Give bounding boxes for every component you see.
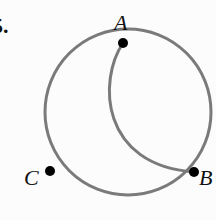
diagram-canvas: 5. A B C bbox=[0, 0, 216, 220]
label-b: B bbox=[199, 165, 212, 190]
problem-number: 5. bbox=[0, 13, 9, 38]
label-a: A bbox=[112, 10, 128, 35]
circle-diagram: 5. A B C bbox=[0, 0, 216, 220]
inner-arc-a-to-b bbox=[109, 43, 194, 172]
point-c bbox=[45, 166, 55, 176]
point-b bbox=[189, 167, 199, 177]
point-a bbox=[118, 38, 128, 48]
label-c: C bbox=[24, 165, 39, 190]
